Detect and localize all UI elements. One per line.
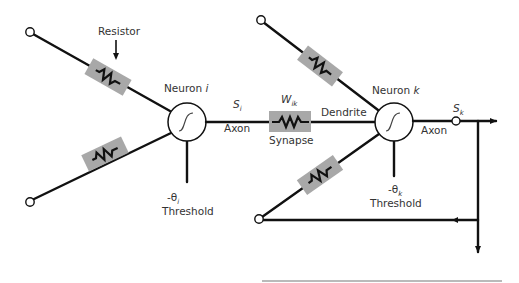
neuron-i-threshold-symbol: -θi (167, 191, 179, 206)
output-terminal-icon (452, 117, 460, 125)
synapse-resistor-icon (269, 111, 311, 132)
resistor-label: Resistor (98, 25, 141, 37)
neuron-i-input-bottom (32, 133, 171, 200)
input-terminal-icon (26, 198, 34, 206)
input-terminal-icon (257, 16, 265, 24)
neuron-i-input-top (33, 34, 170, 111)
resistor-icon (81, 136, 128, 171)
resistor-icon (297, 45, 343, 86)
neuron-i-body (168, 103, 206, 141)
dendrite-label: Dendrite (321, 106, 367, 118)
resistor-icon (84, 58, 131, 95)
resistor-icon (297, 155, 343, 195)
neuron-k-threshold-label: Threshold (369, 197, 422, 209)
neuron-k-input-bottom (262, 134, 379, 217)
output-s-i: Si (233, 98, 242, 113)
neuron-i-label: Neuron i (164, 82, 208, 94)
neuron-i-threshold-label: Threshold (161, 205, 214, 217)
neuron-k-label: Neuron k (372, 84, 420, 96)
neuron-k-body (375, 103, 413, 141)
input-terminal-icon (26, 28, 34, 36)
resistor-pointer-arrow-icon (113, 40, 119, 60)
neuron-i (168, 103, 206, 141)
feedback-arrow-icon (452, 217, 458, 223)
neural-circuit-diagram: Resistor Neuron i -θi Threshold Si Axon … (0, 0, 519, 283)
input-terminal-icon (255, 215, 263, 223)
neuron-k (375, 103, 413, 141)
synapse-label: Synapse (269, 134, 314, 146)
neuron-k-threshold-symbol: -θk (388, 183, 403, 198)
axon-i-label: Axon (224, 122, 250, 134)
axon-k-label: Axon (421, 124, 447, 136)
synapse-weight: Wik (281, 93, 298, 108)
output-s-k: Sk (453, 102, 465, 117)
